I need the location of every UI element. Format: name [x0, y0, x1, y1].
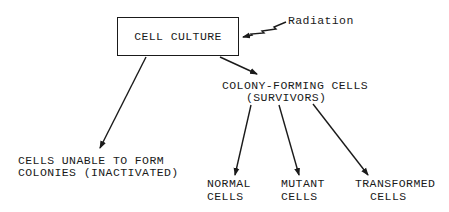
arrow-survivors-to-normal	[235, 105, 251, 175]
arrow-survivors-to-mutant	[279, 105, 299, 175]
arrow-culture-to-inactivated	[100, 57, 146, 148]
mutant-line2: CELLS	[281, 191, 318, 203]
transformed-line2: CELLS	[370, 191, 407, 203]
radiation-zigzag-icon	[243, 22, 286, 37]
diagram-canvas: CELL CULTURE Radiation COLONY-FORMING CE…	[0, 0, 449, 212]
transformed-line1: TRANSFORMED	[355, 178, 435, 190]
normal-line2: CELLS	[207, 191, 244, 203]
arrow-culture-to-survivors	[220, 57, 257, 74]
inactivated-line2: COLONIES (INACTIVATED)	[18, 167, 179, 179]
cell-culture-box: CELL CULTURE	[117, 17, 239, 56]
survivors-line2: (SURVIVORS)	[246, 92, 326, 104]
radiation-label: Radiation	[288, 15, 354, 27]
cell-culture-label: CELL CULTURE	[134, 31, 222, 43]
arrow-survivors-to-transformed	[313, 104, 368, 175]
mutant-line1: MUTANT	[281, 178, 325, 190]
normal-line1: NORMAL	[207, 178, 251, 190]
